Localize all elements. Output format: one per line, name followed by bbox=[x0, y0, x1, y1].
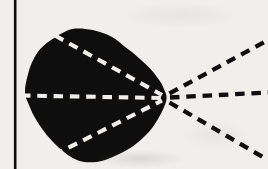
eye-optics-figure bbox=[0, 0, 268, 169]
eye-diagram-svg bbox=[0, 0, 268, 169]
axial-retinal-ray-dashed-line bbox=[21, 96, 162, 99]
